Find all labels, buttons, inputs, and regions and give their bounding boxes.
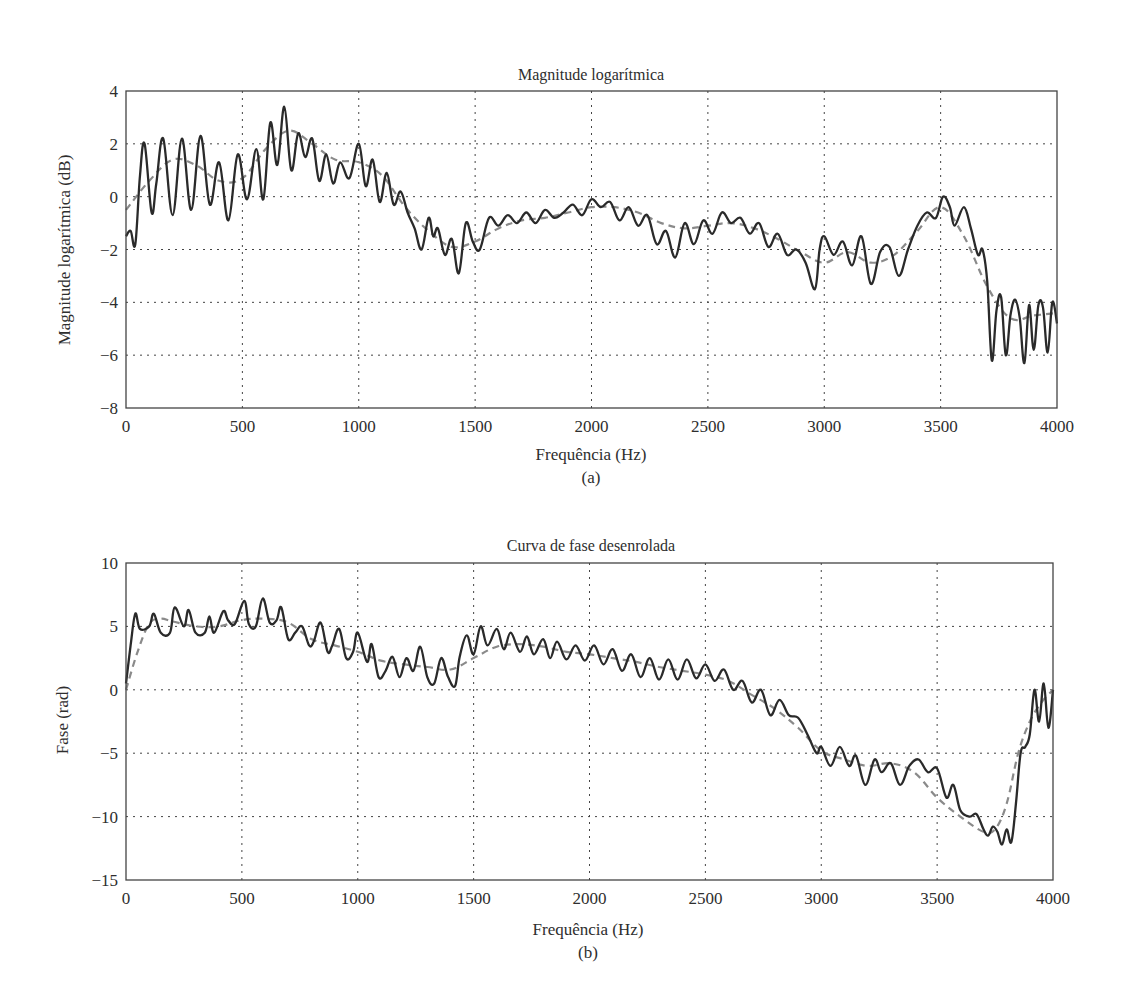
chart-title: Curva de fase desenrolada	[507, 537, 675, 554]
x-tick-label: 2500	[688, 889, 722, 908]
y-tick-label: −6	[100, 346, 118, 365]
grid-lines	[126, 563, 1053, 880]
grid-lines	[126, 91, 1057, 408]
y-tick-label: 0	[110, 188, 119, 207]
phase-chart: Curva de fase desenrolada 05001000150020…	[53, 537, 1070, 962]
x-tick-labels: 05001000150020002500300035004000	[122, 889, 1070, 908]
chart-title: Magnitude logarítmica	[518, 66, 664, 84]
y-tick-label: 5	[110, 617, 119, 636]
y-tick-label: 0	[110, 681, 119, 700]
y-tick-label: 10	[101, 554, 118, 573]
y-tick-labels: −15−10−50510	[91, 554, 118, 890]
x-tick-label: 3500	[920, 889, 954, 908]
x-tick-label: 3000	[807, 417, 841, 436]
x-tick-label: 0	[122, 889, 131, 908]
measured-curve	[126, 107, 1057, 363]
figure-canvas: Magnitude logarítmica 050010001500200025…	[0, 0, 1123, 1001]
y-tick-label: −10	[91, 808, 118, 827]
plot-frame	[126, 563, 1053, 880]
x-tick-label: 3000	[804, 889, 838, 908]
x-tick-label: 4000	[1036, 889, 1070, 908]
data-series	[126, 598, 1053, 844]
y-tick-label: 4	[110, 82, 119, 101]
x-axis-label: Frequência (Hz)	[533, 920, 644, 939]
x-tick-label: 2500	[691, 417, 725, 436]
y-axis-label: Fase (rad)	[53, 686, 72, 754]
y-tick-label: −4	[100, 293, 119, 312]
x-tick-label: 3500	[924, 417, 958, 436]
x-tick-label: 1000	[341, 889, 375, 908]
panel-caption: (b)	[578, 943, 598, 962]
x-tick-label: 1500	[457, 889, 491, 908]
panel-caption: (a)	[582, 468, 601, 487]
y-tick-label: 2	[110, 135, 119, 154]
x-tick-label: 1000	[342, 417, 376, 436]
y-tick-label: −2	[100, 241, 118, 260]
y-axis-label: Magnitude logarítmica (dB)	[55, 155, 74, 346]
y-tick-label: −5	[100, 744, 118, 763]
y-tick-label: −8	[100, 399, 118, 418]
x-tick-label: 4000	[1040, 417, 1074, 436]
x-tick-labels: 05001000150020002500300035004000	[122, 417, 1074, 436]
x-tick-label: 0	[122, 417, 131, 436]
x-axis-label: Frequência (Hz)	[536, 445, 647, 464]
y-tick-labels: −8−6−4−2024	[100, 82, 119, 418]
x-tick-label: 2000	[575, 417, 609, 436]
magnitude-chart: Magnitude logarítmica 050010001500200025…	[55, 66, 1074, 487]
x-tick-label: 2000	[573, 889, 607, 908]
x-tick-label: 500	[230, 417, 256, 436]
measured-curve	[126, 598, 1053, 844]
x-tick-label: 500	[229, 889, 255, 908]
x-tick-label: 1500	[458, 417, 492, 436]
data-series	[126, 107, 1057, 363]
y-tick-label: −15	[91, 871, 118, 890]
